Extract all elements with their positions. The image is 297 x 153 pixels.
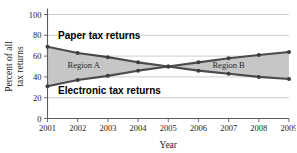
data-point-electronic-2003: [106, 74, 110, 78]
y-axis-title: Percent of all tax returns: [4, 41, 25, 92]
x-tick-labels-group: 200120022003200420052006200720082009: [39, 123, 296, 133]
y-axis-title-line-1: Percent of all: [4, 41, 14, 92]
y-tick-label-100: 100: [29, 10, 42, 20]
x-tick-label-2008: 2008: [250, 123, 267, 133]
chart-container: 200120022003200420052006200720082009 020…: [0, 0, 296, 153]
data-point-paper-2006: [196, 69, 200, 73]
x-tick-label-2007: 2007: [220, 123, 237, 133]
y-tick-label-20: 20: [33, 93, 42, 103]
tax-returns-line-chart: 200120022003200420052006200720082009 020…: [0, 0, 296, 153]
data-point-electronic-2005: [166, 65, 170, 69]
x-tick-label-2003: 2003: [99, 123, 116, 133]
data-point-paper-2004: [136, 60, 140, 64]
data-point-paper-2008: [257, 75, 261, 79]
y-axis-title-line-2: tax returns: [15, 46, 25, 87]
y-tick-label-0: 0: [37, 114, 41, 124]
annotation-region-b-label: Region B: [212, 60, 245, 70]
data-point-electronic-2001: [46, 84, 50, 88]
x-tick-label-2009: 2009: [281, 123, 297, 133]
y-tick-label-60: 60: [33, 51, 42, 61]
annotation-electronic-label: Electronic tax returns: [58, 85, 161, 96]
data-point-electronic-2002: [76, 78, 80, 82]
x-axis-title: Year: [159, 140, 177, 150]
x-tick-label-2006: 2006: [190, 123, 207, 133]
x-tick-label-2002: 2002: [69, 123, 86, 133]
data-point-electronic-2009: [287, 50, 291, 54]
annotation-paper-label: Paper tax returns: [58, 30, 141, 41]
data-point-paper-2001: [46, 45, 50, 49]
y-tick-label-40: 40: [33, 72, 42, 82]
x-tick-label-2005: 2005: [160, 123, 177, 133]
data-point-paper-2009: [287, 77, 291, 81]
x-tick-label-2004: 2004: [130, 123, 148, 133]
x-tick-label-2001: 2001: [39, 123, 56, 133]
data-point-electronic-2008: [257, 53, 261, 57]
annotation-region-a-label: Region A: [68, 60, 101, 70]
data-point-electronic-2006: [196, 60, 200, 64]
y-tick-label-80: 80: [33, 30, 42, 40]
data-point-paper-2003: [106, 55, 110, 59]
data-point-electronic-2004: [136, 69, 140, 73]
data-point-paper-2002: [76, 51, 80, 55]
data-point-paper-2007: [227, 72, 231, 76]
